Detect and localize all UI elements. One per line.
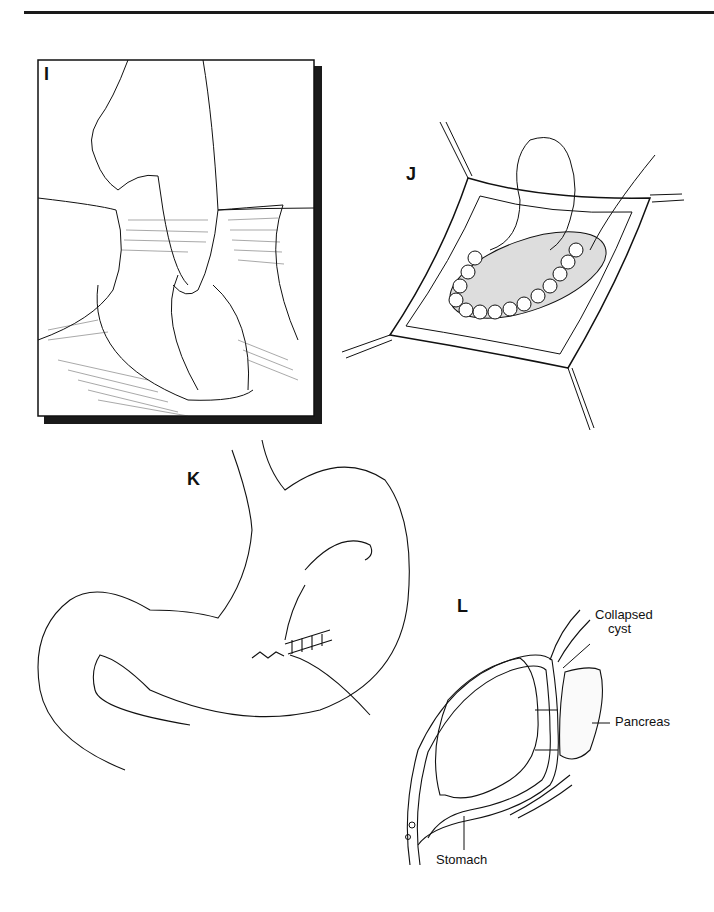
callout-collapsed-cyst: Collapsed cyst [595,608,653,636]
panel-label-l: L [457,596,468,617]
stomach-closure-illustration [40,440,420,780]
panel-i: I [38,60,318,420]
callout-stomach: Stomach [436,853,487,867]
finger-in-cyst-illustration [38,60,328,430]
callout-pancreas: Pancreas [615,715,670,729]
top-rule [24,11,714,14]
callout-collapsed-cyst-line2: cyst [595,622,653,636]
panel-k: K [40,440,420,780]
panel-j: J [340,120,712,440]
panel-l: L Collapsed cyst Pancreas Stomach [400,580,712,900]
callout-collapsed-cyst-line1: Collapsed [595,608,653,622]
panel-label-k: K [187,469,200,490]
panel-label-j: J [406,164,416,185]
panel-label-i: I [44,64,49,85]
sutured-opening-illustration [340,120,712,440]
